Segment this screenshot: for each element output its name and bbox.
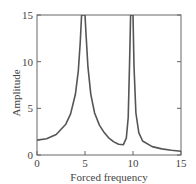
x-tick-label: 10 — [128, 157, 140, 169]
plot-frame — [37, 15, 181, 155]
y-tick-label: 5 — [28, 102, 34, 114]
chart: 051015051015Forced frequencyAmplitude — [0, 0, 196, 184]
x-tick-label: 15 — [176, 157, 188, 169]
x-axis-title: Forced frequency — [70, 171, 148, 183]
y-axis-title: Amplitude — [10, 69, 22, 116]
x-tick-label: 0 — [34, 157, 40, 169]
y-tick-label: 15 — [22, 9, 34, 21]
y-tick-label: 0 — [28, 149, 34, 161]
series-line — [37, 15, 181, 151]
x-tick-label: 5 — [82, 157, 88, 169]
y-tick-label: 10 — [22, 56, 34, 68]
